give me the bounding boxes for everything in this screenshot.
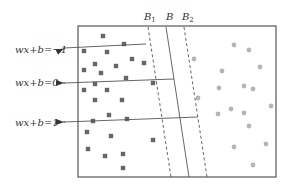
class-square-points	[82, 34, 155, 170]
square-point	[124, 76, 128, 80]
square-point	[82, 49, 86, 53]
circle-point	[192, 57, 197, 62]
circle-point	[264, 142, 269, 147]
square-point	[121, 152, 125, 156]
circle-point	[247, 124, 252, 129]
circle-point	[220, 69, 225, 74]
hyperplane-b1-line	[148, 27, 171, 177]
square-point	[120, 98, 124, 102]
hyperplane-b1-label: B1	[143, 11, 156, 24]
hyperplane-b-line	[166, 27, 189, 177]
square-point	[82, 68, 86, 72]
square-point	[130, 57, 134, 61]
square-point	[151, 81, 155, 85]
hyperplane-labels: B1BB2	[143, 11, 194, 24]
circle-point	[216, 112, 221, 117]
circle-point	[242, 111, 247, 116]
circle-point	[217, 86, 222, 91]
equation-label-plus1: wx+b=1	[15, 117, 59, 128]
circle-point	[242, 84, 247, 89]
hyperplane-b-label: B	[165, 11, 173, 22]
circle-point	[232, 43, 237, 48]
margin-line-minus1	[64, 44, 146, 48]
margin-line-zero	[64, 79, 174, 83]
square-point	[86, 147, 90, 151]
circle-point	[269, 104, 274, 109]
square-point	[103, 154, 107, 158]
square-point	[125, 117, 129, 121]
equation-label-zero: wx+b=0	[15, 77, 59, 88]
square-point	[93, 82, 97, 86]
square-point	[151, 138, 155, 142]
circle-point	[251, 87, 256, 92]
square-point	[142, 61, 146, 65]
square-point	[109, 134, 113, 138]
circle-point	[251, 163, 256, 168]
hyperplane-b2-line	[184, 27, 207, 177]
circle-point	[247, 48, 252, 53]
margin-line-plus1	[64, 117, 198, 122]
class-circle-points	[192, 43, 274, 168]
square-point	[85, 130, 89, 134]
square-point	[101, 34, 105, 38]
square-point	[105, 88, 109, 92]
square-point	[114, 64, 118, 68]
hyperplane-b2-label: B2	[181, 11, 194, 24]
circle-point	[258, 65, 263, 70]
square-point	[105, 50, 109, 54]
circle-point	[196, 96, 201, 101]
svm-margin-diagram: wx+b=−1wx+b=0wx+b=1 B1BB2	[0, 0, 291, 189]
square-point	[93, 98, 97, 102]
hyperplane-lines	[148, 27, 207, 177]
square-point	[82, 88, 86, 92]
square-point	[107, 113, 111, 117]
circle-point	[229, 107, 234, 112]
equation-label-minus1: wx+b=−1	[15, 44, 67, 55]
square-point	[99, 71, 103, 75]
circle-point	[232, 145, 237, 150]
square-point	[93, 62, 97, 66]
square-point	[121, 166, 125, 170]
